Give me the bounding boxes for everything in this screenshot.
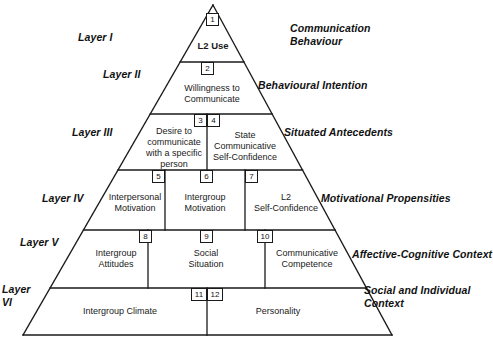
- node-box-11: 11: [191, 288, 207, 301]
- layer-name-layer-3: Layer III: [72, 126, 113, 139]
- node-box-6: 6: [200, 170, 213, 183]
- side-label-layer-6: Social and Individual Context: [364, 284, 471, 309]
- node-box-9: 9: [200, 230, 213, 243]
- cell-label-intergroup-attitudes: Intergroup Attitudes: [86, 248, 146, 270]
- layer-name-layer-1: Layer I: [78, 31, 113, 44]
- side-label-layer-5: Affective-Cognitive Context: [352, 248, 492, 261]
- cell-label-l2-self-confidence: L2 Self-Confidence: [248, 192, 324, 214]
- layer-name-layer-6: Layer VI: [2, 283, 31, 308]
- cell-label-intergroup-motivation: Intergroup Motivation: [175, 192, 235, 214]
- node-box-4: 4: [207, 114, 220, 127]
- cell-label-social-situation: Social Situation: [176, 248, 236, 270]
- cell-label-communicative-competence: Communicative Competence: [268, 248, 346, 270]
- side-label-layer-1: Communication Behaviour: [290, 22, 371, 47]
- node-box-1: 1: [206, 13, 219, 26]
- cell-label-intergroup-climate: Intergroup Climate: [70, 306, 170, 317]
- cell-label-desire-to-communicate: Desire to communicate with a specific pe…: [142, 126, 206, 170]
- wtc-pyramid-figure: Layer I Layer II Layer III Layer IV Laye…: [0, 0, 493, 350]
- node-box-8: 8: [139, 230, 152, 243]
- layer-name-layer-5: Layer V: [20, 236, 59, 249]
- node-box-3: 3: [194, 114, 207, 127]
- side-label-layer-2: Behavioural Intention: [258, 79, 367, 92]
- node-box-12: 12: [207, 288, 223, 301]
- cell-label-state-communicative-self-confidence: State Communicative Self-Confidence: [209, 130, 281, 163]
- node-box-10: 10: [257, 230, 273, 243]
- side-label-layer-3: Situated Antecedents: [284, 126, 393, 139]
- cell-label-interpersonal-motivation: Interpersonal Motivation: [105, 192, 165, 214]
- node-box-7: 7: [245, 170, 258, 183]
- node-box-2: 2: [201, 62, 214, 75]
- cell-label-l2-use: L2 Use: [183, 40, 243, 51]
- side-label-layer-4: Motivational Propensities: [321, 192, 451, 205]
- layer-name-layer-4: Layer IV: [42, 192, 84, 205]
- layer-name-layer-2: Layer II: [103, 68, 141, 81]
- cell-label-personality: Personality: [238, 306, 318, 317]
- cell-label-willingness-to-communicate: Willingness to Communicate: [166, 83, 258, 105]
- node-box-5: 5: [152, 170, 165, 183]
